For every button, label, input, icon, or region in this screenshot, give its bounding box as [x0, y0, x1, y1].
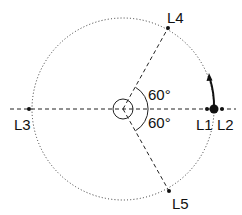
secondary-body: [210, 105, 219, 114]
label-l5: L5: [172, 195, 189, 212]
label-l1: L1: [196, 116, 213, 133]
point-l1: [205, 107, 209, 111]
angle-label-upper: 60°: [148, 86, 171, 103]
point-l5: [167, 189, 171, 193]
label-l2: L2: [217, 116, 234, 133]
point-l2: [220, 107, 224, 111]
point-l3: [27, 107, 31, 111]
orbit-direction-arrow: [210, 79, 214, 108]
label-l4: L4: [167, 9, 184, 26]
angle-label-lower: 60°: [148, 114, 171, 131]
label-l3: L3: [14, 116, 31, 133]
point-l4: [166, 26, 170, 30]
lagrange-points-diagram: L1 L2 L3 L4 L5 60° 60°: [0, 0, 242, 215]
